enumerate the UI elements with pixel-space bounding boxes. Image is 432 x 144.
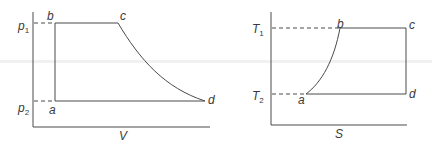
ts-label-t1: T1 [252, 22, 264, 38]
pv-diagram: p1 p2 b c a d V [17, 9, 215, 143]
pv-label-p1: p1 [17, 19, 30, 35]
ts-point-b: b [337, 17, 344, 31]
scan-artifact-band [0, 60, 432, 63]
ts-point-c: c [409, 18, 415, 32]
pv-point-a: a [49, 103, 56, 117]
ts-diagram: T1 T2 b c a d S [252, 12, 416, 141]
ts-x-axis-label: S [335, 127, 343, 141]
pv-x-axis-label: V [119, 129, 128, 143]
pv-point-c: c [120, 9, 126, 23]
ts-label-t2: T2 [252, 89, 264, 105]
thermodynamic-cycle-diagrams: p1 p2 b c a d V T1 T2 b c a d S [0, 0, 432, 144]
ts-point-a: a [298, 93, 305, 107]
pv-point-b: b [47, 9, 54, 23]
pv-label-p2: p2 [17, 101, 30, 117]
ts-point-d: d [409, 87, 416, 101]
pv-point-d: d [208, 93, 215, 107]
